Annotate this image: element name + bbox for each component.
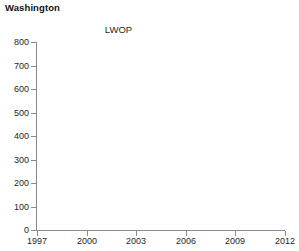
- y-axis-tick: [31, 113, 36, 114]
- y-axis-tick-label-text: 600: [1, 85, 29, 94]
- page-title: Washington: [5, 2, 60, 13]
- y-axis-tick-label-text: 100: [1, 203, 29, 212]
- y-axis-tick-label: 400: [0, 132, 29, 141]
- y-axis-tick-label-text: 700: [1, 62, 29, 71]
- x-axis-tick-label: 2009: [215, 237, 255, 246]
- y-axis-line: [36, 42, 37, 231]
- y-axis-tick-label: 0: [0, 226, 29, 235]
- y-axis-tick-label-text: 800: [1, 38, 29, 47]
- y-axis-tick-label-text: 500: [1, 109, 29, 118]
- y-axis-tick-label-text: 200: [1, 179, 29, 188]
- y-axis-tick-label: 100: [0, 203, 29, 212]
- y-axis-tick-label: 200: [0, 179, 29, 188]
- y-axis-tick: [31, 183, 36, 184]
- y-axis-tick-label: 800: [0, 38, 29, 47]
- x-axis-line: [36, 230, 285, 231]
- x-axis-tick-label: 2006: [166, 237, 206, 246]
- y-axis-tick-label: 700: [0, 62, 29, 71]
- y-axis-tick: [31, 42, 36, 43]
- chart-figure: Washington LWOP 010020030040050060070080…: [0, 0, 299, 251]
- y-axis-tick-label: 500: [0, 109, 29, 118]
- y-axis-tick: [31, 89, 36, 90]
- x-axis-tick-label: 2012: [265, 237, 299, 246]
- plot-area: [37, 42, 285, 230]
- x-axis-tick-label: 1997: [17, 237, 57, 246]
- y-axis-tick: [31, 66, 36, 67]
- y-axis-tick: [31, 230, 36, 231]
- y-axis-tick-label-text: 400: [1, 132, 29, 141]
- y-axis-tick-label: 600: [0, 85, 29, 94]
- x-axis-tick-label: 2003: [116, 237, 156, 246]
- y-axis-tick: [31, 207, 36, 208]
- x-axis-tick-label: 2000: [67, 237, 107, 246]
- y-axis-tick: [31, 136, 36, 137]
- y-axis-tick-label-text: 300: [1, 156, 29, 165]
- y-axis-tick-label-text: 0: [1, 226, 29, 235]
- y-axis-tick: [31, 160, 36, 161]
- y-axis-tick-label: 300: [0, 156, 29, 165]
- chart-series-label: LWOP: [0, 24, 237, 35]
